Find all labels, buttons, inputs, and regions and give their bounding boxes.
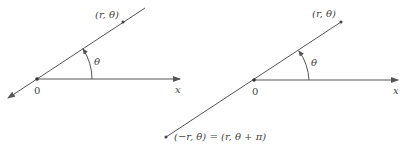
right-point-dot bbox=[340, 21, 343, 24]
right-angle-label: θ bbox=[311, 57, 317, 68]
polar-coordinates-diagram: (r, θ) θ 0 x (r, θ) θ 0 x (−r, θ) = (r, … bbox=[0, 0, 402, 153]
left-origin-dot bbox=[35, 77, 39, 81]
left-diagram: (r, θ) θ 0 x bbox=[8, 8, 181, 98]
left-origin-label: 0 bbox=[34, 85, 40, 96]
right-origin-dot bbox=[252, 78, 256, 82]
left-axis-label: x bbox=[175, 84, 181, 95]
right-origin-label: 0 bbox=[252, 86, 258, 97]
opposite-point-dot bbox=[165, 136, 168, 139]
right-angle-arc bbox=[299, 51, 309, 80]
right-point-label: (r, θ) bbox=[312, 8, 336, 19]
left-point-label: (r, θ) bbox=[95, 9, 119, 20]
right-diagram: (r, θ) θ 0 x (−r, θ) = (r, θ + π) bbox=[165, 8, 400, 142]
right-axis-label: x bbox=[393, 85, 399, 96]
left-point-dot bbox=[122, 21, 125, 24]
left-angle-arc bbox=[83, 49, 92, 79]
opposite-point-label: (−r, θ) = (r, θ + π) bbox=[174, 131, 266, 142]
left-angle-label: θ bbox=[94, 56, 100, 67]
left-ray-backward-arrow bbox=[8, 79, 37, 98]
